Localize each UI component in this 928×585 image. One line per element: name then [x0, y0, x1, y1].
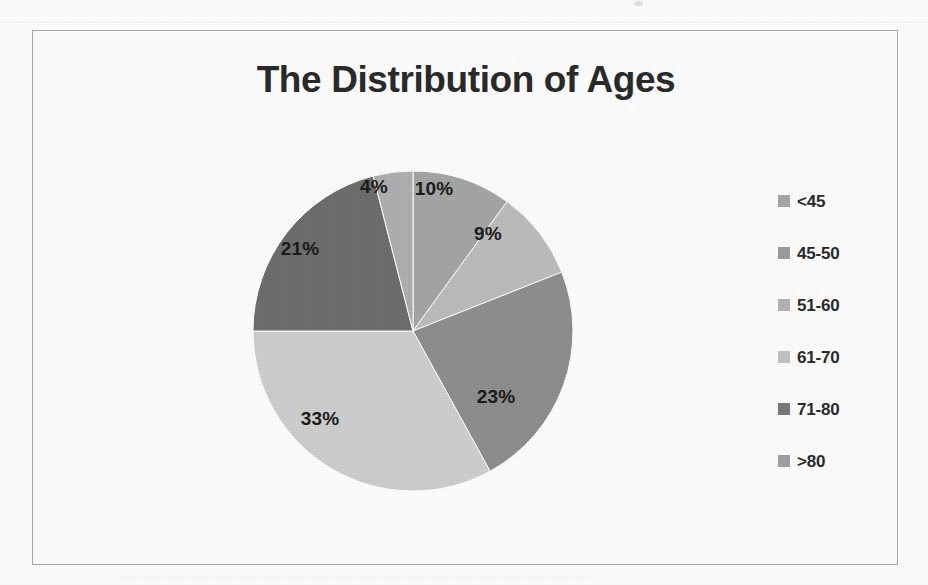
pie-data-label: 33% [301, 408, 340, 430]
legend-item-label: 71-80 [797, 401, 839, 418]
pie-data-label: 10% [415, 178, 454, 200]
scan-top-edge-artifact [0, 22, 928, 23]
pie-plot-area: 10%9%23%33%21%4% [222, 139, 612, 529]
legend-item[interactable]: 45-50 [778, 246, 898, 260]
legend-item-label: <45 [797, 193, 825, 210]
legend-swatch-icon [778, 299, 790, 311]
scan-speck-artifact [634, 1, 643, 6]
scan-bottom-artifact [120, 576, 590, 581]
chart-title: The Distribution of Ages [33, 59, 899, 101]
legend-swatch-icon [778, 195, 790, 207]
legend-item-label: >80 [797, 453, 825, 470]
pie-data-label: 21% [281, 238, 320, 260]
legend-item-label: 45-50 [797, 245, 839, 262]
legend-item[interactable]: 61-70 [778, 350, 898, 364]
legend-item[interactable]: 71-80 [778, 402, 898, 416]
pie-data-label: 23% [477, 386, 516, 408]
chart-legend: <4545-5051-6061-7071-80>80 [778, 194, 898, 506]
pie-slice-group [253, 171, 573, 491]
pie-data-label: 4% [360, 176, 388, 198]
legend-swatch-icon [778, 455, 790, 467]
legend-swatch-icon [778, 247, 790, 259]
legend-item[interactable]: >80 [778, 454, 898, 468]
legend-item-label: 61-70 [797, 349, 839, 366]
legend-item[interactable]: 51-60 [778, 298, 898, 312]
legend-item[interactable]: <45 [778, 194, 898, 208]
legend-swatch-icon [778, 351, 790, 363]
legend-item-label: 51-60 [797, 297, 839, 314]
chart-frame: The Distribution of Ages 10%9%23%33%21%4… [32, 30, 898, 565]
pie-data-label: 9% [474, 223, 502, 245]
legend-swatch-icon [778, 403, 790, 415]
